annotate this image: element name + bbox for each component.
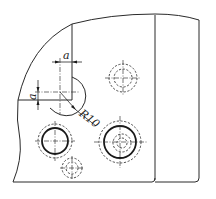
top-curved-edge <box>18 14 199 100</box>
fillet-arc <box>50 77 86 116</box>
dim-arrow-right <box>72 61 77 64</box>
dim-arrow-left <box>55 61 60 64</box>
corner-fillet: a a R10 <box>26 49 102 131</box>
technical-drawing: a a R10 <box>0 0 216 199</box>
hole-innermost-dashed <box>117 138 127 148</box>
dim-a-vertical-label: a <box>26 93 39 100</box>
lower-center-hole <box>60 156 84 180</box>
dim-arrow-up <box>37 87 40 92</box>
drawing-canvas: a a R10 <box>0 0 216 199</box>
right-panel-edge <box>195 20 199 182</box>
upper-right-hole <box>105 60 141 96</box>
plate-outline <box>13 14 199 182</box>
lower-left-hole <box>35 121 75 161</box>
hole-inner-dashed <box>113 134 131 152</box>
panel-divider-corner <box>152 178 155 182</box>
lower-right-hole <box>94 116 148 168</box>
left-edge <box>13 100 20 182</box>
dim-a-horizontal-label: a <box>63 49 70 62</box>
